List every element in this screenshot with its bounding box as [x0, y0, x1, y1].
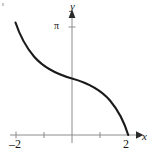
- y-tick-label-pi: π: [54, 21, 59, 31]
- plot-canvas: [0, 0, 152, 155]
- x-tick-label-2: 2: [123, 138, 129, 150]
- y-axis-label: y: [70, 1, 75, 12]
- figure-container: y x π –2 2: [0, 0, 152, 155]
- x-tick-label-minus-2: –2: [9, 138, 21, 150]
- x-axis-label: x: [142, 131, 147, 142]
